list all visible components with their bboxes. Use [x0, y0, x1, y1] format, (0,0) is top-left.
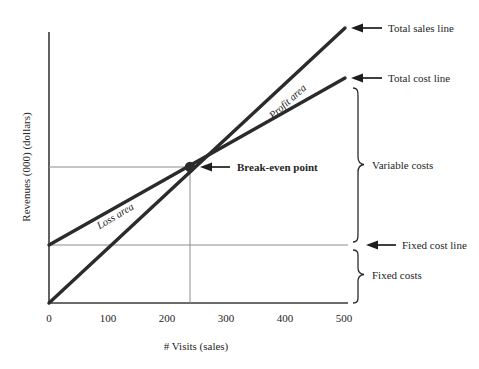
- break-even-chart: 0 100 200 300 400 500 # Visits (sales) R…: [0, 0, 479, 369]
- brace-label: Fixed costs: [372, 269, 422, 281]
- brace-shape: [353, 250, 364, 303]
- x-tick-label: 500: [336, 312, 353, 324]
- x-tick-label: 300: [218, 312, 235, 324]
- annotation-break-even-point: Break-even point: [200, 161, 318, 173]
- brace-fixed-costs: Fixed costs: [353, 250, 422, 303]
- annotation-fixed-cost-line: Fixed cost line: [366, 239, 467, 251]
- annotation-arrow-head: [351, 24, 363, 33]
- annotation-total-sales-line: Total sales line: [351, 22, 454, 34]
- brace-shape: [353, 88, 364, 242]
- annotation-label: Break-even point: [237, 161, 318, 173]
- brace-variable-costs: Variable costs: [353, 88, 433, 242]
- x-tick-label: 100: [100, 312, 117, 324]
- x-axis-title: # Visits (sales): [164, 340, 229, 353]
- annotation-label: Fixed cost line: [402, 239, 467, 251]
- x-tick-label: 400: [277, 312, 294, 324]
- x-tick-label: 200: [159, 312, 176, 324]
- x-tick-label: 0: [46, 312, 52, 324]
- annotation-arrow-head: [351, 74, 363, 83]
- brace-label: Variable costs: [372, 159, 433, 171]
- guide-lines: [49, 167, 348, 303]
- y-axis-title: Revenues (000) (dollars): [20, 112, 33, 222]
- annotation-arrow-head: [366, 241, 378, 250]
- annotation-arrow-head: [200, 163, 212, 172]
- annotation-label: Total cost line: [388, 72, 450, 84]
- break-even-point-marker: [185, 162, 195, 172]
- x-tick-labels: 0 100 200 300 400 500: [46, 312, 353, 324]
- annotation-total-cost-line: Total cost line: [351, 72, 450, 84]
- annotation-label: Total sales line: [388, 22, 454, 34]
